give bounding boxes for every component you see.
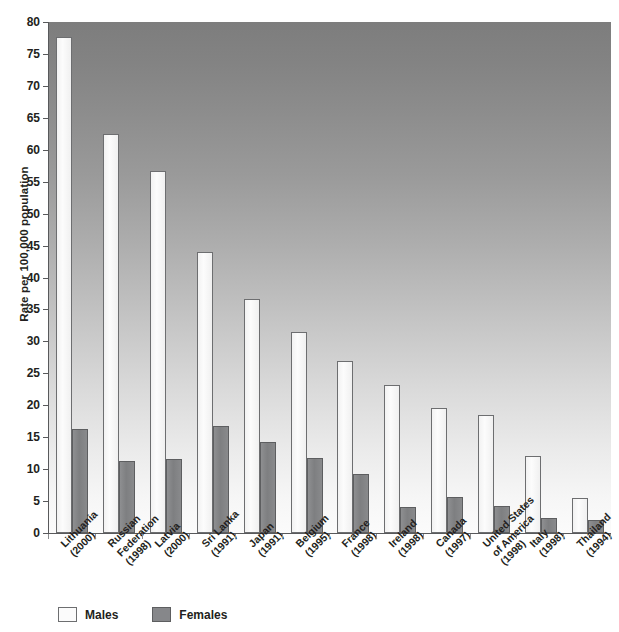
legend-swatch-females bbox=[152, 607, 171, 622]
x-label-0: Lithuania(2000) bbox=[58, 508, 109, 559]
suicide-rates-bar-chart: Rate per 100,000 population 051015202530… bbox=[0, 0, 619, 632]
chart-legend: MalesFemales bbox=[58, 607, 227, 622]
x-tick-mark bbox=[329, 534, 330, 539]
x-axis-labels: Lithuania(2000)RussianFederation(1998)La… bbox=[0, 0, 619, 632]
legend-label: Females bbox=[179, 608, 227, 622]
legend-item-females[interactable]: Females bbox=[152, 607, 227, 622]
x-tick-mark bbox=[282, 534, 283, 539]
x-label-4: Japan(1991) bbox=[246, 520, 285, 559]
x-tick-mark bbox=[95, 534, 96, 539]
x-label-8: Canada(1997) bbox=[433, 514, 478, 559]
legend-label: Males bbox=[85, 608, 118, 622]
legend-item-males[interactable]: Males bbox=[58, 607, 118, 622]
x-tick-mark bbox=[423, 534, 424, 539]
x-tick-mark bbox=[470, 534, 471, 539]
x-label-5: Belgium(1995) bbox=[293, 512, 340, 559]
x-label-11: Thailand(1994) bbox=[574, 510, 619, 558]
x-tick-mark bbox=[376, 534, 377, 539]
x-tick-mark bbox=[516, 534, 517, 539]
x-tick-mark bbox=[142, 534, 143, 539]
legend-swatch-males bbox=[58, 607, 77, 622]
x-tick-mark bbox=[235, 534, 236, 539]
x-tick-mark bbox=[189, 534, 190, 539]
x-label-3: Sri Lanka(1991) bbox=[199, 508, 250, 559]
x-tick-mark bbox=[48, 534, 49, 539]
x-tick-mark bbox=[610, 534, 611, 539]
x-tick-mark bbox=[563, 534, 564, 539]
